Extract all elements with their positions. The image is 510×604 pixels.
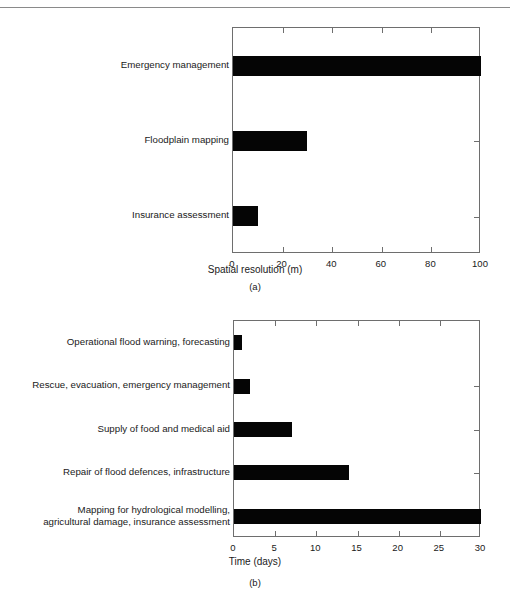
- x-tick-mark-top: [316, 321, 317, 326]
- x-tick-mark-top: [382, 28, 383, 33]
- y-tick-mark-right: [474, 386, 479, 387]
- category-label: Insurance assessment: [132, 210, 229, 222]
- x-tick-label: 100: [472, 258, 488, 269]
- x-tick-label: 40: [326, 258, 337, 269]
- x-tick-label: 15: [351, 542, 362, 553]
- panel-caption-a: (a): [0, 281, 510, 293]
- plot-area-b: [233, 320, 480, 537]
- x-tick-mark: [399, 531, 400, 536]
- category-label: Operational flood warning, forecasting: [67, 336, 230, 348]
- x-tick-mark-top: [358, 321, 359, 326]
- x-tick-label: 0: [230, 542, 235, 553]
- x-tick-label: 10: [310, 542, 321, 553]
- x-tick-label: 20: [276, 258, 287, 269]
- bar: [234, 379, 250, 394]
- figure-panel-b: Time (days) (b) 051015202530Operational …: [0, 300, 510, 604]
- x-tick-label: 0: [229, 258, 234, 269]
- x-tick-mark: [283, 247, 284, 252]
- x-tick-label: 20: [392, 542, 403, 553]
- x-tick-mark: [431, 247, 432, 252]
- x-tick-mark-top: [275, 321, 276, 326]
- y-tick-mark-right: [474, 430, 479, 431]
- x-tick-label: 5: [272, 542, 277, 553]
- x-tick-mark: [358, 531, 359, 536]
- x-tick-label: 80: [425, 258, 436, 269]
- bar: [233, 131, 307, 151]
- x-tick-mark-top: [399, 321, 400, 326]
- category-label: Repair of flood defences, infrastructure: [63, 466, 230, 478]
- category-label: Emergency management: [121, 59, 229, 71]
- panel-caption-b: (b): [0, 577, 510, 589]
- bar: [234, 335, 242, 350]
- category-label: Mapping for hydrological modelling, agri…: [43, 504, 230, 527]
- category-label: Rescue, evacuation, emergency management: [32, 379, 230, 391]
- x-tick-mark-top: [431, 28, 432, 33]
- x-tick-mark: [440, 531, 441, 536]
- x-tick-mark-top: [332, 28, 333, 33]
- bar: [234, 465, 349, 480]
- y-tick-mark-right: [474, 141, 479, 142]
- x-axis-title-b: Time (days): [0, 556, 510, 568]
- x-tick-label: 30: [475, 542, 486, 553]
- x-tick-mark: [316, 531, 317, 536]
- x-tick-label: 60: [376, 258, 387, 269]
- plot-area-a: [232, 27, 480, 253]
- category-label: Supply of food and medical aid: [98, 423, 230, 435]
- x-tick-mark: [275, 531, 276, 536]
- x-tick-mark: [332, 247, 333, 252]
- category-label: Floodplain mapping: [144, 134, 229, 146]
- bar: [233, 56, 481, 76]
- page-footer-text: [0, 596, 510, 604]
- y-tick-mark-right: [474, 217, 479, 218]
- y-tick-mark-right: [474, 473, 479, 474]
- x-tick-label: 25: [434, 542, 445, 553]
- x-tick-mark-top: [283, 28, 284, 33]
- x-tick-mark-top: [440, 321, 441, 326]
- bar: [234, 422, 292, 437]
- x-tick-mark: [382, 247, 383, 252]
- bar: [233, 206, 258, 226]
- bar: [234, 509, 481, 524]
- figure-panel-a: Spatial resolution (m) (a) 020406080100E…: [0, 0, 510, 300]
